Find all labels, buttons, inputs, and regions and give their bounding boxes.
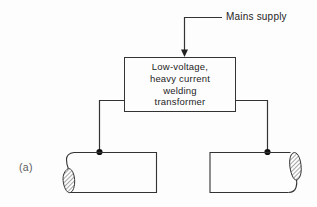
left-workpiece (63, 153, 156, 193)
right-workpiece-broken-end-hatch (290, 153, 302, 180)
transformer-label-line-1: Low-voltage, (152, 61, 208, 73)
welding-transformer-diagram: Mains supply Low-voltage, heavy current … (0, 0, 317, 207)
left-workpiece-outline (71, 153, 157, 193)
transformer-label-line-4: transformer (155, 96, 206, 108)
mains-supply-label: Mains supply (226, 11, 287, 22)
left-workpiece-break-curve (67, 153, 75, 169)
right-workpiece (210, 153, 301, 193)
transformer-label-line-2: heavy current (150, 73, 210, 85)
left-electrode-wire (100, 101, 125, 152)
down-arrow-icon (181, 50, 188, 58)
mains-supply-wire (185, 18, 223, 51)
transformer-box: Low-voltage, heavy current welding trans… (124, 57, 236, 112)
transformer-label-line-3: welding (163, 85, 197, 97)
left-workpiece-broken-end-hatch (63, 168, 75, 192)
right-workpiece-break-curve (289, 180, 297, 193)
panel-label: (a) (19, 161, 33, 173)
right-electrode-wire (236, 101, 268, 152)
right-workpiece-outline (210, 153, 291, 193)
